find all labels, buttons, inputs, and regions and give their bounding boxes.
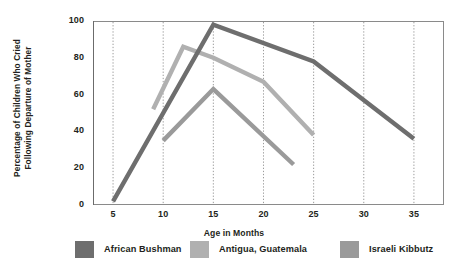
- plot-area: [93, 21, 444, 205]
- series-line: [163, 89, 293, 164]
- y-axis-tick-label: 100: [58, 15, 84, 25]
- y-axis-tick-label: 60: [58, 89, 84, 99]
- x-axis-tick-label: 25: [299, 209, 329, 219]
- y-axis-tick-label: 20: [58, 162, 84, 172]
- y-axis-tick-label: 40: [58, 125, 84, 135]
- legend-item[interactable]: Antigua, Guatemala: [190, 239, 307, 259]
- x-axis-title: Age in Months: [0, 228, 468, 238]
- x-axis-tick-label: 20: [248, 209, 278, 219]
- y-axis-title-line-1: Percentage of Children Who Cried: [12, 39, 22, 177]
- x-axis-tick-label: 30: [349, 209, 379, 219]
- legend-label: Antigua, Guatemala: [219, 244, 307, 254]
- x-axis-tick-labels: 5101520253035: [0, 209, 468, 223]
- chart-legend: African BushmanAntigua, GuatemalaIsraeli…: [0, 239, 468, 263]
- plot-svg: [93, 21, 444, 205]
- legend-item[interactable]: Israeli Kibbutz: [340, 239, 433, 259]
- plot-frame: [94, 22, 444, 205]
- x-axis-tick-label: 35: [399, 209, 429, 219]
- chart-figure: Percentage of Children Who Cried Followi…: [0, 0, 468, 270]
- y-axis-title-line-2: Following Departure of Mother: [23, 39, 34, 177]
- legend-color-swatch: [340, 241, 359, 258]
- x-axis-tick-label: 10: [148, 209, 178, 219]
- legend-color-swatch: [190, 241, 209, 258]
- y-axis-tick-labels: 020406080100: [46, 0, 84, 230]
- x-axis-tick-label: 15: [198, 209, 228, 219]
- y-axis-tick-label: 80: [58, 52, 84, 62]
- legend-color-swatch: [75, 241, 94, 258]
- x-axis-tick-label: 5: [98, 209, 128, 219]
- legend-label: Israeli Kibbutz: [369, 244, 433, 254]
- legend-item[interactable]: African Bushman: [75, 239, 182, 259]
- y-axis: [93, 21, 94, 205]
- legend-label: African Bushman: [104, 244, 182, 254]
- y-axis-tick-label: 0: [58, 199, 84, 209]
- y-axis-title: Percentage of Children Who Cried Followi…: [0, 0, 46, 215]
